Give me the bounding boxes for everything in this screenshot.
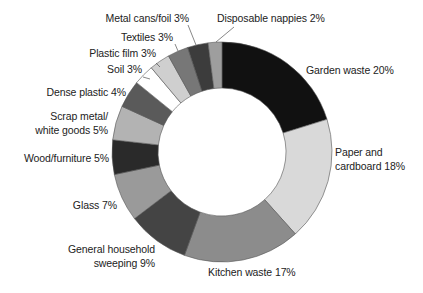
label-soil: Soil 3% bbox=[107, 63, 142, 76]
label-kitchen-waste: Kitchen waste 17% bbox=[208, 266, 296, 279]
label-scrap-line1: Scrap metal/ bbox=[50, 110, 108, 123]
label-metal-cans: Metal cans/foil 3% bbox=[106, 12, 189, 25]
label-dense-plastic: Dense plastic 4% bbox=[46, 86, 126, 99]
label-paper-line2: cardboard 18% bbox=[335, 160, 405, 173]
label-paper-line1: Paper and bbox=[335, 146, 383, 159]
label-general-line1: General household bbox=[68, 243, 155, 256]
slice-garden-waste bbox=[222, 42, 327, 133]
label-general-line2: sweeping 9% bbox=[94, 257, 155, 270]
label-textiles: Textiles 3% bbox=[121, 31, 173, 44]
label-nappies: Disposable nappies 2% bbox=[217, 12, 325, 25]
label-garden-waste: Garden waste 20% bbox=[306, 64, 394, 77]
leader-line-textiles bbox=[175, 44, 178, 51]
donut-slices bbox=[112, 42, 332, 262]
leader-line-nappies bbox=[216, 27, 234, 42]
label-glass: Glass 7% bbox=[73, 199, 117, 212]
label-scrap-line2: white goods 5% bbox=[35, 124, 108, 137]
label-wood: Wood/furniture 5% bbox=[24, 152, 109, 165]
leader-line-metal bbox=[188, 25, 196, 45]
label-plastic-film: Plastic film 3% bbox=[89, 47, 156, 60]
